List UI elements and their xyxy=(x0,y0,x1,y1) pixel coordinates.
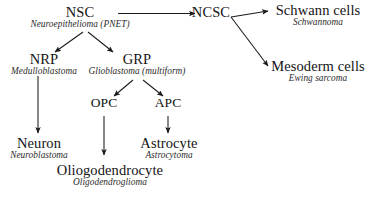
node-schwann-cells-label: Schwann cells xyxy=(271,3,365,18)
node-grp-label: GRP xyxy=(85,52,189,67)
edge-ncsc-schwann xyxy=(231,11,268,17)
node-opc[interactable]: OPC xyxy=(82,96,126,110)
node-astrocyte[interactable]: Astrocyte Astrocytoma xyxy=(130,136,208,161)
node-ncsc[interactable]: NCSC xyxy=(188,5,234,20)
edge-grp-apc xyxy=(143,80,163,96)
node-oligodendrocyte[interactable]: Oliogodendrocyte Oligodendroglioma xyxy=(40,163,180,188)
node-neuron[interactable]: Neuron Neuroblastoma xyxy=(0,136,78,161)
node-mesoderm-cells[interactable]: Mesoderm cells Ewing sarcoma xyxy=(268,59,368,84)
node-astrocyte-label: Astrocyte xyxy=(130,136,208,151)
node-oligodendrocyte-label: Oliogodendrocyte xyxy=(40,163,180,178)
node-schwann-cells[interactable]: Schwann cells Schwannoma xyxy=(271,3,365,28)
edge-ncsc-mesoderm xyxy=(231,17,268,66)
node-nrp[interactable]: NRP Medulloblastoma xyxy=(0,52,88,77)
node-grp[interactable]: GRP Glioblastoma (multiform) xyxy=(85,52,189,77)
node-mesoderm-cells-tumor: Ewing sarcoma xyxy=(268,74,368,83)
edge-nsc-grp xyxy=(88,32,113,52)
node-apc-label: APC xyxy=(146,96,190,110)
lineage-diagram: NSC Neuroepithelioma (PNET) NCSC Schwann… xyxy=(0,0,368,197)
node-neuron-label: Neuron xyxy=(0,136,78,151)
node-astrocyte-tumor: Astrocytoma xyxy=(130,151,208,160)
node-nsc-tumor: Neuroepithelioma (PNET) xyxy=(30,20,130,29)
node-oligodendrocyte-tumor: Oligodendroglioma xyxy=(40,178,180,187)
edge-grp-opc xyxy=(114,80,133,96)
node-opc-label: OPC xyxy=(82,96,126,110)
node-grp-tumor: Glioblastoma (multiform) xyxy=(85,67,189,76)
node-neuron-tumor: Neuroblastoma xyxy=(0,151,78,160)
node-ncsc-label: NCSC xyxy=(188,5,234,20)
node-nrp-label: NRP xyxy=(0,52,88,67)
node-apc[interactable]: APC xyxy=(146,96,190,110)
node-nsc[interactable]: NSC Neuroepithelioma (PNET) xyxy=(30,5,130,30)
node-nsc-label: NSC xyxy=(30,5,130,20)
node-schwann-cells-tumor: Schwannoma xyxy=(271,18,365,27)
node-nrp-tumor: Medulloblastoma xyxy=(0,67,88,76)
edge-nsc-nrp xyxy=(55,32,83,52)
node-mesoderm-cells-label: Mesoderm cells xyxy=(268,59,368,74)
